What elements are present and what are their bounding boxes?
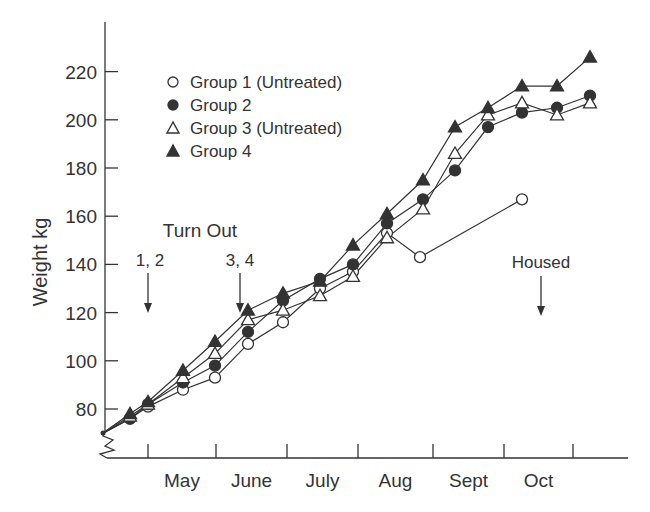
filled-circle-marker-icon (348, 259, 359, 270)
legend-label: Group 2 (190, 96, 251, 115)
filled-triangle-marker-icon (516, 80, 529, 91)
weight-chart: 80100120140160180200220MayJuneJulyAugSep… (0, 0, 650, 512)
start-point (101, 431, 106, 436)
filled-circle-marker-icon (210, 360, 221, 371)
y-axis-title: Weight kg (29, 218, 51, 307)
legend: Group 1 (Untreated)Group 2Group 3 (Untre… (167, 73, 342, 161)
axis-break-icon (100, 432, 114, 458)
open-circle-marker-icon (243, 338, 254, 349)
legend-item: Group 1 (Untreated) (168, 73, 342, 92)
filled-triangle-marker-icon (417, 174, 430, 185)
x-month-label: July (306, 470, 340, 491)
x-month-label: Sept (449, 470, 489, 491)
open-triangle-marker-icon (417, 202, 430, 213)
filled-circle-marker-icon (450, 165, 461, 176)
legend-item: Group 3 (Untreated) (167, 119, 342, 138)
x-month-label: May (164, 470, 200, 491)
annotation-label: 3, 4 (226, 251, 254, 270)
annotation-label: Housed (512, 253, 571, 272)
y-tick-label: 80 (76, 399, 97, 420)
x-month-label: Aug (379, 470, 413, 491)
annotation-label: Turn Out (163, 220, 238, 241)
filled-triangle-marker-icon (277, 287, 290, 298)
open-triangle-marker-icon (516, 96, 529, 107)
filled-circle-icon (168, 100, 178, 110)
y-tick-label: 160 (65, 206, 97, 227)
open-triangle-icon (167, 122, 179, 133)
y-axis-label: Weight kg (29, 218, 51, 307)
down-arrow-icon (144, 303, 152, 313)
open-circle-marker-icon (210, 372, 221, 383)
filled-circle-marker-icon (483, 122, 494, 133)
open-circle-marker-icon (415, 252, 426, 263)
filled-triangle-marker-icon (584, 51, 597, 62)
y-tick-label: 180 (65, 158, 97, 179)
filled-circle-marker-icon (382, 218, 393, 229)
legend-label: Group 4 (190, 142, 251, 161)
filled-triangle-marker-icon (242, 304, 255, 315)
legend-item: Group 2 (168, 96, 251, 115)
legend-label: Group 1 (Untreated) (190, 73, 342, 92)
y-tick-label: 100 (65, 351, 97, 372)
x-month-label: Oct (524, 470, 554, 491)
y-tick-label: 200 (65, 110, 97, 131)
y-tick-label: 120 (65, 303, 97, 324)
annotation-label: 1, 2 (136, 251, 164, 270)
open-circle-icon (168, 77, 178, 87)
x-month-label: June (231, 470, 272, 491)
open-circle-marker-icon (278, 317, 289, 328)
filled-triangle-marker-icon (482, 101, 495, 112)
legend-item: Group 4 (167, 142, 251, 161)
filled-triangle-icon (167, 145, 179, 156)
filled-circle-marker-icon (243, 326, 254, 337)
filled-triangle-marker-icon (449, 121, 462, 132)
filled-triangle-marker-icon (551, 80, 564, 91)
y-tick-label: 140 (65, 254, 97, 275)
legend-label: Group 3 (Untreated) (190, 119, 342, 138)
y-tick-label: 220 (65, 62, 97, 83)
filled-circle-marker-icon (517, 107, 528, 118)
down-arrow-icon (537, 306, 545, 316)
open-circle-marker-icon (517, 194, 528, 205)
